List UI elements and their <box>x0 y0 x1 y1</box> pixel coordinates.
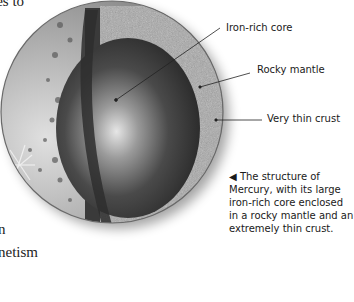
label-iron-rich-core: Iron-rich core <box>226 22 292 33</box>
label-very-thin-crust: Very thin crust <box>267 113 340 124</box>
iron-rich-core <box>56 38 200 218</box>
label-rocky-mantle: Rocky mantle <box>257 64 325 75</box>
figure-caption: ◀ The structure of Mercury, with its lar… <box>229 170 354 235</box>
body-text-fragment-2: netism <box>0 243 38 261</box>
caption-text: The structure of Mercury, with its large… <box>229 171 353 234</box>
caption-arrow-icon: ◀ <box>229 171 237 182</box>
body-text-fragment-1: n <box>0 220 6 238</box>
mercury-cross-section-illustration <box>0 0 354 302</box>
